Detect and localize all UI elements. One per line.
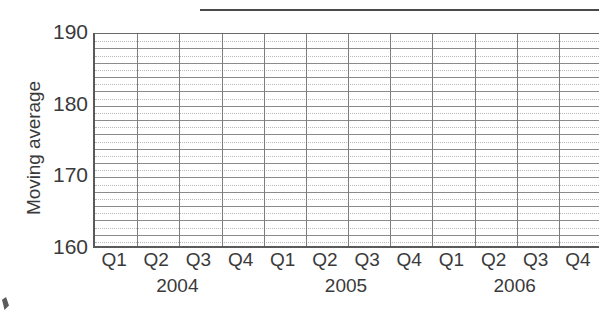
x-axis-quarter-label: Q1: [93, 249, 135, 271]
gridline-horizontal-major: [95, 48, 599, 49]
gridline-horizontal-minor: [95, 41, 599, 42]
gridline-horizontal-minor: [95, 56, 599, 57]
y-axis-tick-label: 190: [27, 20, 88, 44]
y-axis-title: Moving average: [23, 43, 45, 253]
gridline-horizontal-minor: [95, 170, 599, 171]
gridline-vertical: [390, 34, 391, 246]
gridline-horizontal-minor: [95, 156, 599, 157]
plot-area: [93, 33, 599, 248]
scan-artifact-mark: [2, 297, 9, 310]
gridline-vertical: [432, 34, 433, 246]
gridline-horizontal-major: [95, 120, 599, 121]
x-axis-quarter-label: Q2: [135, 249, 177, 271]
gridline-horizontal-major: [95, 192, 599, 193]
gridline-vertical: [475, 34, 476, 246]
gridline-horizontal-minor: [95, 213, 599, 214]
gridline-horizontal-minor: [95, 99, 599, 100]
x-axis-quarter-label: Q1: [430, 249, 472, 271]
x-axis-quarter-label: Q3: [515, 249, 557, 271]
x-axis-quarter-label: Q4: [557, 249, 599, 271]
gridline-horizontal-major: [95, 220, 599, 221]
top-horizontal-rule: [200, 9, 599, 11]
x-axis-quarter-label: Q4: [388, 249, 430, 271]
gridline-horizontal-minor: [95, 228, 599, 229]
gridline-horizontal-minor: [95, 199, 599, 200]
gridline-horizontal-major: [95, 206, 599, 207]
gridline-horizontal-major: [95, 134, 599, 135]
x-axis-year-label: 2005: [301, 275, 391, 297]
x-axis-quarter-label: Q1: [262, 249, 304, 271]
gridline-vertical: [137, 34, 138, 246]
gridline-horizontal-minor: [95, 242, 599, 243]
gridline-horizontal-minor: [95, 70, 599, 71]
gridline-horizontal-major: [95, 106, 599, 107]
x-axis-year-label: 2006: [470, 275, 560, 297]
x-axis-quarter-label: Q3: [346, 249, 388, 271]
gridline-horizontal-minor: [95, 84, 599, 85]
x-axis-quarter-labels: Q1Q2Q3Q4Q1Q2Q3Q4Q1Q2Q3Q4: [93, 249, 599, 273]
gridline-horizontal-major: [95, 177, 599, 178]
x-axis-quarter-label: Q2: [473, 249, 515, 271]
x-axis-year-label: 2004: [132, 275, 222, 297]
gridline-vertical: [517, 34, 518, 246]
gridline-vertical: [222, 34, 223, 246]
gridline-horizontal-major: [95, 163, 599, 164]
x-axis-year-labels: 200420052006: [93, 275, 599, 303]
gridline-horizontal-major: [95, 91, 599, 92]
x-axis-quarter-label: Q2: [304, 249, 346, 271]
gridline-horizontal-minor: [95, 185, 599, 186]
gridline-vertical: [179, 34, 180, 246]
gridline-vertical: [306, 34, 307, 246]
gridline-vertical: [559, 34, 560, 246]
gridline-horizontal-minor: [95, 113, 599, 114]
x-axis-quarter-label: Q3: [177, 249, 219, 271]
gridline-horizontal-major: [95, 149, 599, 150]
gridline-vertical: [264, 34, 265, 246]
gridline-vertical: [348, 34, 349, 246]
x-axis-quarter-label: Q4: [220, 249, 262, 271]
gridline-horizontal-major: [95, 235, 599, 236]
gridline-horizontal-major: [95, 63, 599, 64]
gridline-horizontal-minor: [95, 142, 599, 143]
gridline-horizontal-minor: [95, 127, 599, 128]
gridline-horizontal-major: [95, 77, 599, 78]
